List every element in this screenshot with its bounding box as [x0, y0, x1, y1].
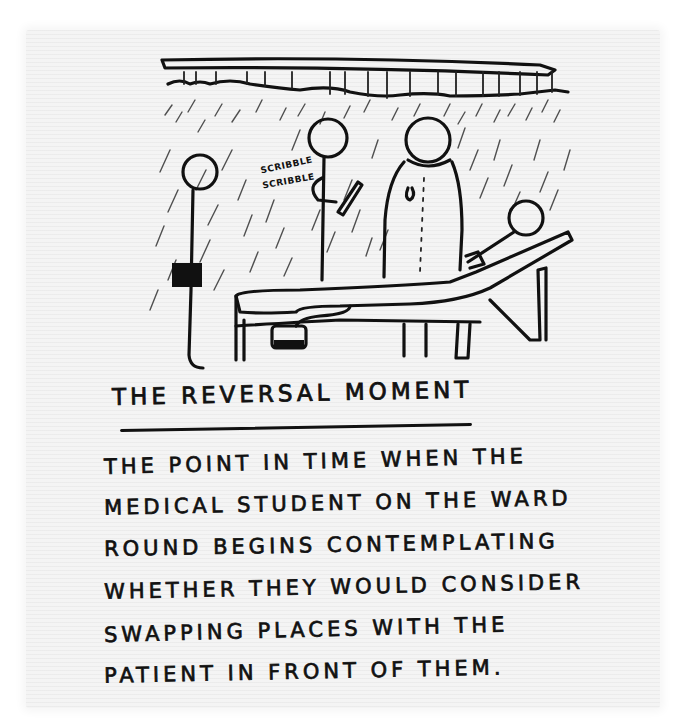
pocket-badge-icon: [406, 188, 413, 200]
hospital-bed: [236, 232, 572, 360]
junior-doctor-figure: [309, 119, 362, 280]
ceiling-rail: [162, 59, 568, 98]
consultant-figure: [384, 118, 462, 277]
caption-line: PATIENT IN FRONT OF THEM.: [104, 645, 565, 697]
medical-student-figure: [172, 155, 217, 368]
caption-body: THE POINT IN TIME WHEN THE MEDICAL STUDE…: [104, 440, 564, 692]
clipboard-icon: [172, 263, 202, 287]
